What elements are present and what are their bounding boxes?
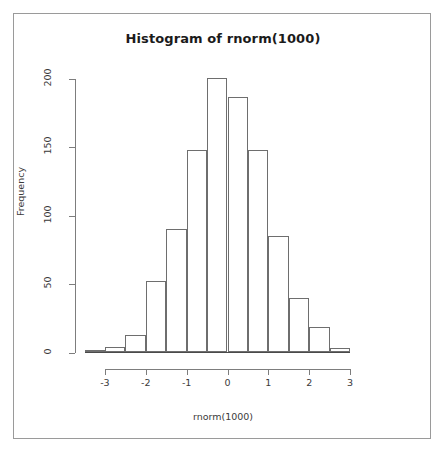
x-axis-tick-label: 1 — [253, 377, 283, 388]
x-axis-tick-label: 0 — [213, 377, 243, 388]
histogram-bar — [248, 150, 268, 352]
x-axis-tick-label: -1 — [172, 377, 202, 388]
histogram-bar — [187, 150, 207, 352]
histogram-bar — [166, 229, 186, 352]
histogram-figure: Histogram of rnorm(1000) Frequency 05010… — [0, 0, 446, 455]
histogram-bar — [289, 298, 309, 353]
x-axis-tick-label: 3 — [335, 377, 365, 388]
histogram-bar — [228, 97, 248, 353]
x-axis-tick — [309, 369, 310, 375]
x-axis-tick-label: 2 — [294, 377, 324, 388]
x-axis-tick — [105, 369, 106, 375]
baseline — [85, 352, 351, 353]
x-axis-tick — [146, 369, 147, 375]
histogram-bar — [125, 335, 145, 353]
histogram-bar — [207, 78, 227, 353]
histogram-bar — [146, 281, 166, 352]
x-axis-tick — [228, 369, 229, 375]
x-axis-tick — [350, 369, 351, 375]
x-axis-tick — [187, 369, 188, 375]
x-axis-label: rnorm(1000) — [0, 411, 446, 422]
x-axis-tick — [268, 369, 269, 375]
histogram-bar — [268, 236, 288, 352]
x-axis-tick-label: -3 — [90, 377, 120, 388]
histogram-bar — [309, 327, 329, 353]
x-axis-tick-label: -2 — [131, 377, 161, 388]
